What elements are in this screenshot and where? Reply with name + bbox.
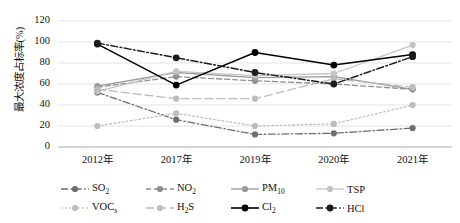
data-point xyxy=(173,68,179,74)
legend-item-Cl2[interactable]: Cl2 xyxy=(230,199,315,217)
chart-legend: SO2NO2PM10TSP VOCsH2SCl2HCl xyxy=(0,180,460,222)
y-tick-label: 120 xyxy=(16,15,50,25)
legend-swatch-icon xyxy=(230,183,260,195)
legend-item-PM10[interactable]: PM10 xyxy=(230,180,315,198)
x-tick-label: 2012年 xyxy=(57,151,137,166)
legend-swatch-icon xyxy=(315,202,345,214)
data-point xyxy=(331,130,337,136)
legend-item-VOCs[interactable]: VOCs xyxy=(60,199,145,217)
y-tick-label: 80 xyxy=(16,57,50,67)
data-point xyxy=(252,49,259,56)
series-line xyxy=(97,105,412,126)
legend-item-HCl[interactable]: HCl xyxy=(315,199,400,217)
data-point xyxy=(252,69,259,76)
data-point xyxy=(173,54,180,61)
legend-label: TSP xyxy=(347,184,365,195)
data-point xyxy=(94,123,100,129)
y-tick-label: 20 xyxy=(16,120,50,130)
legend-swatch-icon xyxy=(315,183,345,195)
legend-item-H2S[interactable]: H2S xyxy=(145,199,230,217)
data-point xyxy=(173,82,180,89)
data-point xyxy=(330,62,337,69)
legend-label: SO2 xyxy=(92,182,109,196)
data-point xyxy=(173,110,179,116)
data-point xyxy=(173,96,179,102)
x-tick-label: 2017年 xyxy=(136,151,216,166)
legend-label: NO2 xyxy=(177,182,196,196)
legend-swatch-icon xyxy=(145,202,175,214)
y-tick-label: 0 xyxy=(16,141,50,151)
legend-row-secondary: VOCsH2SCl2HCl xyxy=(0,199,460,217)
data-point xyxy=(410,125,416,131)
legend-label: Cl2 xyxy=(262,201,276,215)
line-chart-svg xyxy=(0,0,460,165)
x-tick-label: 2019年 xyxy=(215,151,295,166)
data-point xyxy=(94,86,100,92)
data-point xyxy=(330,81,337,88)
data-point xyxy=(252,123,258,129)
y-tick-label: 100 xyxy=(16,36,50,46)
legend-label: VOCs xyxy=(92,201,117,215)
data-point xyxy=(331,121,337,127)
y-tick-label: 40 xyxy=(16,99,50,109)
y-tick-label: 60 xyxy=(16,78,50,88)
data-point xyxy=(94,40,101,47)
legend-label: HCl xyxy=(347,203,365,214)
plot-area: 最大浓度占标率(%) 120100806040200 2012年2017年201… xyxy=(0,0,460,165)
data-point xyxy=(173,117,179,123)
data-point xyxy=(410,42,416,48)
data-point xyxy=(252,96,258,102)
data-point xyxy=(410,84,416,90)
data-point xyxy=(331,70,337,76)
data-point xyxy=(252,131,258,137)
x-tick-label: 2021年 xyxy=(373,151,453,166)
legend-label: H2S xyxy=(177,201,194,215)
legend-item-NO2[interactable]: NO2 xyxy=(145,180,230,198)
legend-item-SO2[interactable]: SO2 xyxy=(60,180,145,198)
legend-item-TSP[interactable]: TSP xyxy=(315,180,400,198)
data-point xyxy=(409,53,416,60)
legend-row-primary: SO2NO2PM10TSP xyxy=(0,180,460,198)
legend-swatch-icon xyxy=(145,183,175,195)
x-tick-label: 2020年 xyxy=(294,151,374,166)
legend-swatch-icon xyxy=(60,202,90,214)
legend-swatch-icon xyxy=(60,183,90,195)
legend-label: PM10 xyxy=(262,182,285,196)
chart-container: 最大浓度占标率(%) 120100806040200 2012年2017年201… xyxy=(0,0,460,223)
series-VOCs xyxy=(94,102,415,129)
data-point xyxy=(410,102,416,108)
legend-swatch-icon xyxy=(230,202,260,214)
